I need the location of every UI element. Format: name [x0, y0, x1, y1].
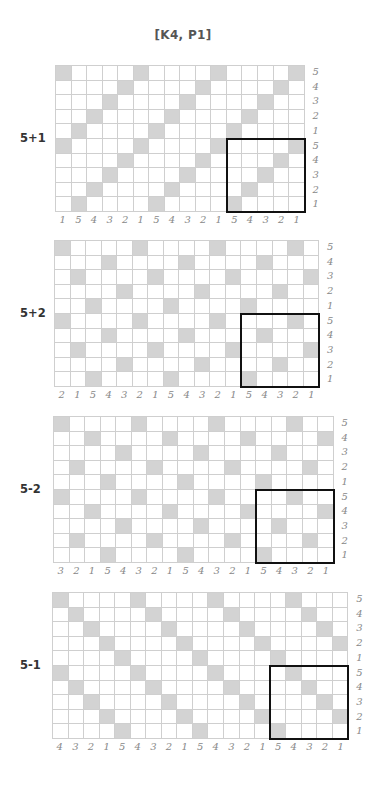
knit-cell: [225, 417, 241, 432]
knit-cell: [195, 270, 211, 285]
stitch-number-label: 2: [54, 389, 70, 400]
stitch-number-label: 4: [101, 389, 117, 400]
knit-cell: [134, 110, 150, 125]
knit-cell: [100, 608, 116, 623]
purl-cell: [227, 197, 243, 212]
stitch-number-label: 5: [227, 214, 243, 225]
purl-cell: [117, 285, 133, 300]
purl-cell: [272, 519, 288, 534]
knit-cell: [211, 95, 227, 110]
knit-cell: [133, 256, 149, 271]
purl-cell: [208, 593, 224, 608]
knit-cell: [273, 343, 289, 358]
row-number-label: 5: [353, 593, 365, 604]
stitch-number-label: 3: [146, 741, 162, 752]
knit-cell: [85, 534, 101, 549]
knit-cell: [196, 124, 212, 139]
knit-cell: [56, 124, 72, 139]
stitch-number-label: 2: [303, 565, 319, 576]
knit-cell: [84, 710, 100, 725]
purl-cell: [271, 724, 287, 739]
knit-cell: [134, 183, 150, 198]
purl-cell: [194, 519, 210, 534]
purl-cell: [255, 710, 271, 725]
knit-cell: [256, 417, 272, 432]
knit-cell: [287, 475, 303, 490]
knit-cell: [271, 637, 287, 652]
purl-cell: [196, 81, 212, 96]
stitch-number-label: 4: [193, 565, 209, 576]
knit-cell: [149, 95, 165, 110]
knit-cell: [146, 593, 162, 608]
knit-cell: [180, 139, 196, 154]
knit-cell: [240, 593, 256, 608]
purl-cell: [165, 183, 181, 198]
knit-cell: [117, 343, 133, 358]
knit-cell: [274, 139, 290, 154]
knit-cell: [162, 637, 178, 652]
knit-cell: [227, 81, 243, 96]
knit-cell: [304, 314, 320, 329]
purl-cell: [258, 168, 274, 183]
knit-cell: [84, 681, 100, 696]
purl-cell: [84, 622, 100, 637]
stitch-number-label: 3: [68, 741, 84, 752]
knit-cell: [70, 432, 86, 447]
purl-cell: [241, 432, 257, 447]
knit-cell: [255, 666, 271, 681]
knit-cell: [163, 461, 179, 476]
knit-cell: [71, 299, 87, 314]
knit-cell: [115, 681, 131, 696]
knit-cell: [271, 710, 287, 725]
purl-cell: [132, 417, 148, 432]
knit-cell: [274, 110, 290, 125]
knit-cell: [303, 432, 319, 447]
knit-cell: [177, 593, 193, 608]
purl-cell: [210, 314, 226, 329]
knit-cell: [256, 505, 272, 520]
purl-cell: [56, 139, 72, 154]
knit-cell: [317, 681, 333, 696]
knit-cell: [101, 446, 117, 461]
chart-label: 5+1: [20, 131, 46, 145]
knit-cell: [148, 285, 164, 300]
purl-cell: [134, 66, 150, 81]
purl-cell: [180, 95, 196, 110]
knit-cell: [134, 95, 150, 110]
knit-cell: [289, 81, 305, 96]
knit-cell: [289, 197, 305, 212]
stitch-number-label: 2: [239, 741, 255, 752]
purl-cell: [211, 66, 227, 81]
knit-cell: [53, 622, 69, 637]
knit-cell: [117, 256, 133, 271]
purl-cell: [286, 666, 302, 681]
knit-cell: [208, 724, 224, 739]
knit-cell: [180, 197, 196, 212]
purl-cell: [54, 417, 70, 432]
knit-cell: [271, 695, 287, 710]
stitch-number-label: 4: [257, 389, 273, 400]
purl-cell: [257, 329, 273, 344]
knit-cell: [193, 608, 209, 623]
knit-cell: [288, 256, 304, 271]
knit-cell: [85, 519, 101, 534]
purl-cell: [84, 695, 100, 710]
stitch-number-label: 1: [211, 214, 227, 225]
knit-cell: [256, 519, 272, 534]
knit-cell: [165, 168, 181, 183]
knit-cell: [177, 681, 193, 696]
purl-cell: [146, 681, 162, 696]
knit-cell: [273, 256, 289, 271]
stitch-grid: [52, 592, 348, 739]
stitch-number-label: 3: [131, 565, 147, 576]
knit-cell: [178, 432, 194, 447]
knit-cell: [86, 329, 102, 344]
knit-cell: [102, 285, 118, 300]
knit-cell: [85, 461, 101, 476]
knit-cell: [193, 593, 209, 608]
knit-cell: [131, 608, 147, 623]
knit-cell: [303, 548, 319, 563]
purl-cell: [147, 534, 163, 549]
knit-cell: [257, 314, 273, 329]
knit-cell: [303, 446, 319, 461]
